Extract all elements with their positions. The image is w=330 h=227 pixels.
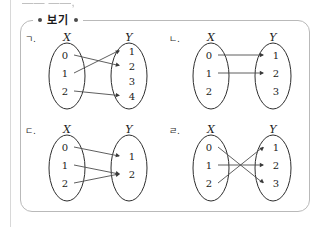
x-element-2: 2 xyxy=(206,86,212,97)
x-element-1: 1 xyxy=(206,68,212,79)
x-element-1: 1 xyxy=(62,160,68,171)
y-element-1: 1 xyxy=(273,142,279,153)
page-left-rule xyxy=(10,0,11,227)
arrow-head-0-to-1 xyxy=(260,53,264,57)
y-set-label: Y xyxy=(125,123,134,136)
x-set-label: X xyxy=(62,123,72,136)
x-element-2: 2 xyxy=(206,178,212,189)
y-element-2: 2 xyxy=(273,160,279,171)
arrow-head-2-to-4 xyxy=(116,93,120,97)
bullet-right-icon xyxy=(74,18,78,22)
y-element-4: 4 xyxy=(129,91,135,102)
x-element-2: 2 xyxy=(62,178,68,189)
diagram-1: ㄴ.XY012123 xyxy=(165,26,309,118)
y-element-2: 2 xyxy=(129,61,135,72)
diagram-grid: ㄱ.XY0121234ㄴ.XY012123ㄷ.XY01212ㄹ.XY012123 xyxy=(21,26,309,210)
mapping-diagram-3: XY012123 xyxy=(181,118,303,210)
y-element-1: 1 xyxy=(129,46,135,57)
x-element-0: 0 xyxy=(206,142,212,153)
x-element-1: 1 xyxy=(62,68,68,79)
y-set-label: Y xyxy=(269,123,278,136)
arrow-head-0-to-2 xyxy=(115,62,120,66)
diagram-3: ㄹ.XY012123 xyxy=(165,118,309,210)
x-element-2: 2 xyxy=(62,86,68,97)
x-set-label: X xyxy=(206,31,216,44)
y-set-label: Y xyxy=(125,31,134,44)
mapping-diagram-1: XY012123 xyxy=(181,26,303,118)
bogi-label-text: 보기 xyxy=(47,15,69,26)
diagram-2: ㄷ.XY01212 xyxy=(21,118,165,210)
x-element-1: 1 xyxy=(206,160,212,171)
bullet-left-icon xyxy=(38,18,42,22)
mapping-diagram-2: XY01212 xyxy=(37,118,159,210)
y-set-label: Y xyxy=(269,31,278,44)
x-element-0: 0 xyxy=(62,50,68,61)
x-element-0: 0 xyxy=(206,50,212,61)
arrow-head-0-to-1 xyxy=(115,153,120,157)
mapping-diagram-0: XY0121234 xyxy=(37,26,159,118)
y-element-2: 2 xyxy=(273,68,279,79)
diagram-tag-0: ㄱ. xyxy=(25,32,36,45)
diagram-tag-2: ㄷ. xyxy=(25,124,36,137)
cut-off-heading-text: —— ——, xyxy=(22,0,142,8)
arrow-head-1-to-2 xyxy=(260,163,264,167)
y-element-2: 2 xyxy=(129,169,135,180)
y-element-3: 3 xyxy=(129,76,135,87)
arrow-0-to-1 xyxy=(74,147,119,156)
arrow-1-to-2 xyxy=(74,165,119,174)
x-element-0: 0 xyxy=(62,142,68,153)
x-set-label: X xyxy=(62,31,72,44)
arrow-head-1-to-2 xyxy=(260,71,264,75)
y-element-1: 1 xyxy=(129,151,135,162)
y-element-1: 1 xyxy=(273,50,279,61)
arrow-0-to-2 xyxy=(74,55,119,66)
y-element-3: 3 xyxy=(273,178,279,189)
y-element-3: 3 xyxy=(273,86,279,97)
arrow-2-to-4 xyxy=(74,91,119,96)
x-set-label: X xyxy=(206,123,216,136)
diagram-tag-1: ㄴ. xyxy=(169,32,180,45)
bogi-label: 보기 xyxy=(33,13,83,27)
diagram-tag-3: ㄹ. xyxy=(169,124,180,137)
diagram-0: ㄱ.XY0121234 xyxy=(21,26,165,118)
